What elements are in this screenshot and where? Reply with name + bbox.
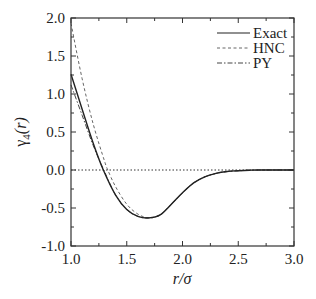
x-tick-label: 2.5 <box>229 251 248 267</box>
y-tick-label: 0.0 <box>46 162 65 178</box>
y-tick-label: 1.0 <box>46 86 65 102</box>
y-tick-label: -1.0 <box>41 238 65 254</box>
chart: 1.01.52.02.53.0-1.0-0.50.00.51.01.52.0 E… <box>0 0 316 299</box>
y-tick-label: 2.0 <box>46 10 65 26</box>
y-axis-label: γ4(r) <box>12 117 32 147</box>
x-tick-label: 2.0 <box>173 251 192 267</box>
y-tick-label: 1.5 <box>46 48 65 64</box>
y-tick-label: 0.5 <box>46 124 65 140</box>
legend-label-py: PY <box>253 55 272 71</box>
x-tick-label: 1.5 <box>117 251 136 267</box>
series-exact <box>71 74 294 218</box>
series-py <box>71 85 294 218</box>
x-axis-label: r/σ <box>173 270 193 287</box>
legend: Exact HNC PY <box>217 25 288 71</box>
y-tick-label: -0.5 <box>41 200 65 216</box>
legend-label-hnc: HNC <box>253 40 285 56</box>
x-tick-label: 3.0 <box>285 251 304 267</box>
legend-label-exact: Exact <box>253 25 288 41</box>
